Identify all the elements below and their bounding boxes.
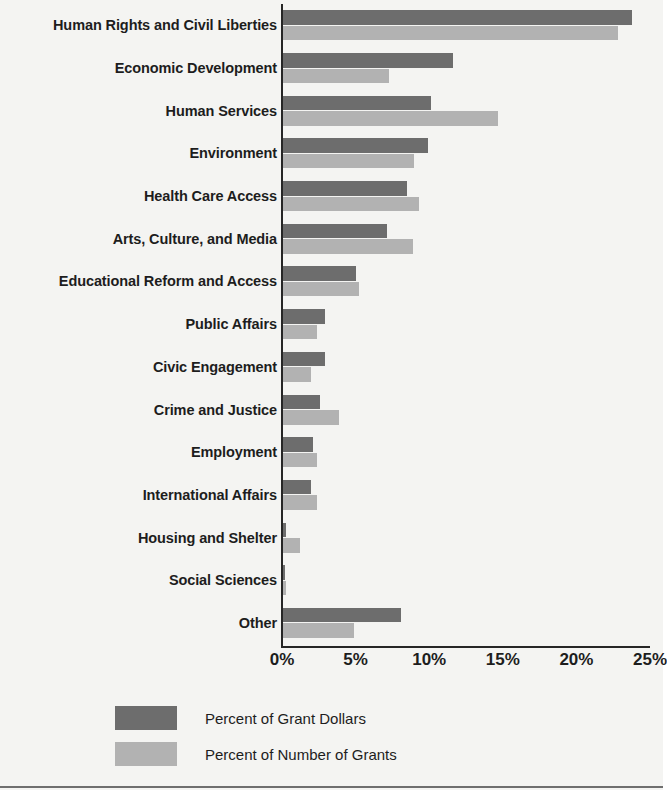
category-label: Health Care Access [0,188,277,204]
bar-group [282,516,652,559]
category-label: Educational Reform and Access [0,273,277,289]
bar-row: Human Rights and Civil Liberties [0,4,663,47]
bar-grant-dollars [282,96,431,111]
x-axis-line [281,646,650,648]
bar-grant-dollars [282,10,632,25]
bar-row: Other [0,602,663,645]
bar-number-of-grants [282,325,317,340]
bar-grant-dollars [282,309,325,324]
bar-number-of-grants [282,239,413,254]
y-axis-line [281,4,283,648]
bar-grant-dollars [282,437,313,452]
legend-swatch-icon [115,706,177,730]
x-tick-label: 15% [486,650,520,670]
legend-item: Percent of Grant Dollars [115,700,565,736]
bar-number-of-grants [282,282,359,297]
bar-group [282,217,652,260]
x-axis-ticks: 0%5%10%15%20%25% [0,650,663,678]
x-tick-label: 20% [559,650,593,670]
bar-number-of-grants [282,410,339,425]
legend-swatch-icon [115,742,177,766]
bar-group [282,474,652,517]
footer-divider [0,786,663,788]
bar-number-of-grants [282,623,354,638]
category-label: Employment [0,444,277,460]
bar-number-of-grants [282,538,300,553]
bar-group [282,602,652,645]
category-label: Environment [0,145,277,161]
bar-grant-dollars [282,53,453,68]
bar-grant-dollars [282,608,401,623]
category-label: Housing and Shelter [0,530,277,546]
bar-group [282,559,652,602]
bar-group [282,431,652,474]
bar-grant-dollars [282,224,387,239]
bar-group [282,388,652,431]
bar-number-of-grants [282,453,317,468]
bar-group [282,4,652,47]
bar-row: Employment [0,431,663,474]
x-tick-label: 10% [412,650,446,670]
plot-area: Human Rights and Civil LibertiesEconomic… [0,0,663,648]
bar-number-of-grants [282,69,389,84]
bar-number-of-grants [282,367,311,382]
bar-number-of-grants [282,111,498,126]
category-label: Human Services [0,103,277,119]
bar-row: Crime and Justice [0,388,663,431]
bar-grant-dollars [282,138,428,153]
bar-group [282,303,652,346]
bar-row: International Affairs [0,474,663,517]
bar-group [282,132,652,175]
bar-row: Housing and Shelter [0,516,663,559]
bar-row: Arts, Culture, and Media [0,217,663,260]
bar-row: Environment [0,132,663,175]
bar-grant-dollars [282,395,320,410]
bar-row: Educational Reform and Access [0,260,663,303]
category-label: International Affairs [0,487,277,503]
x-tick-label: 0% [270,650,295,670]
bar-group [282,47,652,90]
bar-group [282,346,652,389]
x-tick-label: 5% [343,650,368,670]
bar-row: Economic Development [0,47,663,90]
bar-row: Health Care Access [0,175,663,218]
legend-item: Percent of Number of Grants [115,736,565,772]
category-label: Crime and Justice [0,402,277,418]
legend-label: Percent of Number of Grants [205,746,397,763]
bar-number-of-grants [282,154,414,169]
bar-number-of-grants [282,26,618,41]
category-label: Arts, Culture, and Media [0,231,277,247]
bar-grant-dollars [282,352,325,367]
category-label: Human Rights and Civil Liberties [0,17,277,33]
bar-group [282,260,652,303]
bar-number-of-grants [282,197,419,212]
category-label: Social Sciences [0,572,277,588]
bar-row: Social Sciences [0,559,663,602]
chart-legend: Percent of Grant DollarsPercent of Numbe… [115,700,565,772]
bar-grant-dollars [282,266,356,281]
category-label: Civic Engagement [0,359,277,375]
legend-label: Percent of Grant Dollars [205,710,366,727]
bar-group [282,89,652,132]
x-tick-label: 25% [633,650,667,670]
category-label: Other [0,615,277,631]
bar-rows: Human Rights and Civil LibertiesEconomic… [0,4,663,644]
bar-grant-dollars [282,480,311,495]
bar-row: Human Services [0,89,663,132]
category-label: Economic Development [0,60,277,76]
bar-row: Civic Engagement [0,346,663,389]
bar-grant-dollars [282,181,407,196]
bar-number-of-grants [282,495,317,510]
bar-row: Public Affairs [0,303,663,346]
category-label: Public Affairs [0,316,277,332]
bar-group [282,175,652,218]
